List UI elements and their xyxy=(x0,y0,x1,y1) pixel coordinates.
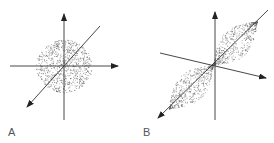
diagram-canvas xyxy=(0,0,274,143)
panel-b-label: B xyxy=(143,126,150,138)
panel-a-axes xyxy=(10,14,118,120)
panel-b-horizontal-axis xyxy=(160,53,266,78)
panel-b-diagonal-axis xyxy=(158,10,268,118)
panel-a-label: A xyxy=(8,126,15,138)
panel-b-axes xyxy=(158,10,268,120)
